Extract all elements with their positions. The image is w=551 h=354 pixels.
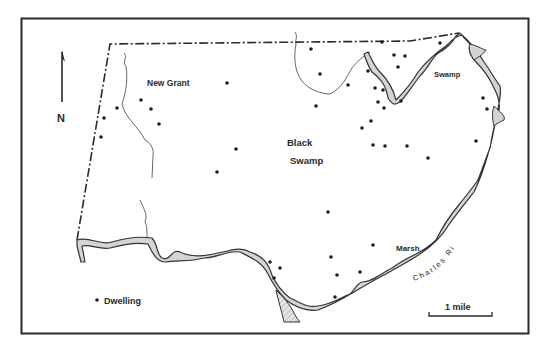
label-swamp-ne: Swamp xyxy=(434,70,461,79)
dwelling-dot xyxy=(115,106,119,110)
dwelling-dot xyxy=(474,139,478,143)
legend-dwelling-label: Dwelling xyxy=(104,296,141,306)
dwelling-dot xyxy=(329,255,333,259)
dwelling-dot xyxy=(383,144,387,148)
dwelling-dot xyxy=(333,295,337,299)
dwelling-dot xyxy=(234,147,238,151)
dwelling-dot xyxy=(149,107,153,111)
dwelling-dot xyxy=(380,40,384,44)
dwelling-dot xyxy=(399,99,403,103)
dwelling-dot xyxy=(157,122,161,126)
dwelling-dot xyxy=(215,170,219,174)
dwelling-dot xyxy=(381,88,385,92)
dwelling-dot xyxy=(318,72,322,76)
land-grant-boundary xyxy=(77,33,459,240)
dwelling-dot xyxy=(225,81,229,85)
dwelling-dot xyxy=(481,96,485,100)
dwelling-dot xyxy=(102,116,106,120)
dwelling-dot xyxy=(309,47,313,51)
dwelling-dot xyxy=(403,54,407,58)
brook-southwest xyxy=(140,200,148,240)
dwelling-dot xyxy=(405,144,409,148)
dwelling-dot xyxy=(139,98,143,102)
dwelling-dot xyxy=(426,156,430,160)
dwelling-dot xyxy=(346,83,350,87)
scale-bar xyxy=(429,312,492,316)
map: N New Grant Black Swamp Swamp Marsh Char… xyxy=(0,0,551,354)
label-marsh: Marsh xyxy=(396,244,420,253)
dwelling-dot xyxy=(373,86,377,90)
dwelling-dot xyxy=(99,135,103,139)
dwelling-dot xyxy=(438,41,442,45)
legend-dwelling-dot xyxy=(95,298,99,302)
label-new-grant: New Grant xyxy=(147,78,190,88)
dwelling-dot xyxy=(268,260,272,264)
label-swamp-center: Swamp xyxy=(290,155,323,166)
dwelling-dot xyxy=(371,243,375,247)
dwelling-dot xyxy=(358,270,362,274)
north-label: N xyxy=(57,112,65,124)
dwelling-dot xyxy=(392,53,396,57)
label-black: Black xyxy=(287,137,313,148)
dwelling-dot xyxy=(371,143,375,147)
scale-bar-label: 1 mile xyxy=(445,302,471,312)
dwelling-dot xyxy=(485,107,489,111)
dwelling-dot xyxy=(376,100,380,104)
dwelling-dot xyxy=(369,119,373,123)
dwelling-dot xyxy=(335,273,339,277)
dwelling-dot xyxy=(360,126,364,130)
dwelling-dot xyxy=(366,69,370,73)
dwelling-dot xyxy=(314,104,318,108)
dwelling-dot xyxy=(272,276,276,280)
dwelling-dot xyxy=(326,210,330,214)
dwelling-dot xyxy=(396,65,400,69)
north-arrow xyxy=(62,50,65,102)
dwelling-dot xyxy=(278,266,282,270)
dwelling-dot xyxy=(382,106,386,110)
brook-west xyxy=(122,53,153,178)
